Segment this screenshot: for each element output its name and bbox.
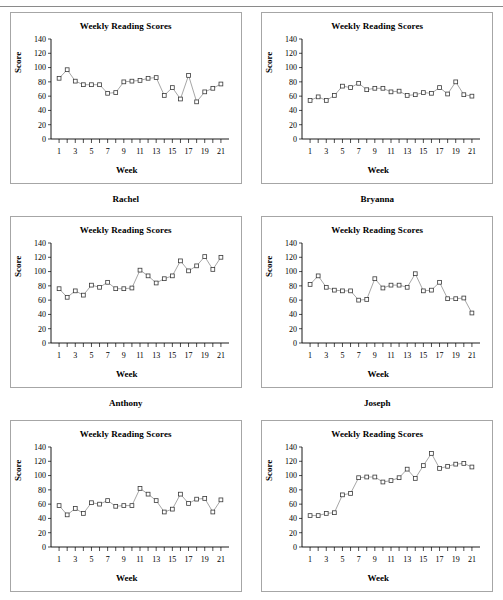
data-point-marker (154, 499, 158, 503)
x-tick-label: 5 (341, 555, 345, 564)
data-point-marker (57, 504, 61, 508)
data-point-marker (438, 467, 442, 471)
data-point-marker (422, 464, 426, 468)
student-name-label: Joseph (364, 398, 391, 410)
x-tick-label: 21 (468, 147, 476, 156)
data-point-marker (446, 92, 450, 96)
x-tick-label: 11 (387, 147, 395, 156)
x-tick-label: 11 (136, 351, 144, 360)
data-point-marker (462, 296, 466, 300)
x-tick-label: 21 (217, 555, 225, 564)
data-point-marker (381, 480, 385, 484)
data-point-marker (389, 283, 393, 287)
y-tick-label: 120 (34, 457, 46, 466)
data-point-marker (73, 289, 77, 293)
y-tick-label: 0 (42, 339, 46, 348)
chart-title: Weekly Reading Scores (262, 429, 492, 439)
chart-cell: Weekly Reading ScoresScoreWeek0204060801… (252, 216, 503, 410)
y-tick-label: 140 (34, 35, 46, 44)
data-point-marker (406, 285, 410, 289)
data-point-marker (162, 277, 166, 281)
data-point-marker (317, 274, 321, 278)
data-point-marker (57, 287, 61, 291)
y-tick-label: 80 (38, 486, 46, 495)
y-tick-label: 140 (285, 443, 297, 452)
data-point-marker (146, 76, 150, 80)
data-point-marker (333, 288, 337, 292)
y-tick-label: 60 (38, 296, 46, 305)
data-point-marker (138, 268, 142, 272)
data-point-marker (211, 268, 215, 272)
y-tick-label: 20 (38, 529, 46, 538)
data-point-marker (130, 286, 134, 290)
data-point-marker (325, 512, 329, 516)
data-point-marker (138, 79, 142, 83)
y-tick-label: 80 (38, 282, 46, 291)
chart-svg: 02040608010012014013579111315171921 (11, 35, 243, 185)
x-tick-label: 13 (152, 147, 160, 156)
data-point-marker (203, 255, 207, 259)
y-tick-label: 120 (285, 253, 297, 262)
x-tick-label: 15 (420, 555, 428, 564)
data-point-marker (97, 285, 101, 289)
y-tick-label: 80 (289, 282, 297, 291)
x-tick-label: 5 (89, 147, 93, 156)
y-tick-label: 100 (34, 267, 46, 276)
data-point-marker (194, 497, 198, 501)
data-point-marker (186, 269, 190, 273)
x-tick-label: 1 (308, 351, 312, 360)
data-point-marker (454, 297, 458, 301)
data-point-marker (341, 84, 345, 88)
x-tick-label: 15 (168, 555, 176, 564)
x-tick-label: 9 (373, 147, 377, 156)
chart-svg: 02040608010012014013579111315171921 (262, 443, 494, 593)
data-point-marker (438, 86, 442, 90)
data-point-marker (430, 91, 434, 95)
data-point-marker (81, 83, 85, 87)
data-point-marker (365, 298, 369, 302)
data-point-marker (325, 285, 329, 289)
x-tick-label: 5 (89, 555, 93, 564)
x-tick-label: 3 (73, 147, 77, 156)
y-tick-label: 40 (38, 106, 46, 115)
y-tick-label: 40 (38, 514, 46, 523)
data-point-marker (170, 274, 174, 278)
data-point-marker (333, 94, 337, 98)
chart-cell: Weekly Reading ScoresScoreWeek0204060801… (0, 420, 252, 600)
chart-cell: Weekly Reading ScoresScoreWeek0204060801… (0, 216, 252, 410)
chart-title: Weekly Reading Scores (11, 429, 241, 439)
data-point-marker (211, 86, 215, 90)
y-tick-label: 20 (38, 325, 46, 334)
data-point-marker (170, 507, 174, 511)
data-point-marker (357, 476, 361, 480)
y-tick-label: 0 (293, 543, 297, 552)
y-tick-label: 140 (34, 239, 46, 248)
x-tick-label: 7 (105, 351, 109, 360)
data-point-marker (97, 83, 101, 87)
x-tick-label: 3 (73, 555, 77, 564)
chart-title: Weekly Reading Scores (262, 21, 492, 31)
series-line (59, 488, 221, 514)
data-point-marker (154, 281, 158, 285)
plot-area: ScoreWeek0204060801001201401357911131517… (262, 35, 494, 185)
x-tick-label: 13 (403, 147, 411, 156)
x-tick-label: 21 (217, 351, 225, 360)
chart-panel: Weekly Reading ScoresScoreWeek0204060801… (261, 12, 493, 184)
data-point-marker (122, 504, 126, 508)
x-tick-label: 13 (403, 555, 411, 564)
x-tick-label: 11 (387, 555, 395, 564)
plot-area: ScoreWeek0204060801001201401357911131517… (11, 239, 243, 389)
data-point-marker (389, 479, 393, 483)
data-point-marker (349, 86, 353, 90)
data-point-marker (430, 288, 434, 292)
data-point-marker (130, 79, 134, 83)
chart-title: Weekly Reading Scores (11, 225, 241, 235)
chart-panel: Weekly Reading ScoresScoreWeek0204060801… (10, 12, 242, 184)
x-tick-label: 19 (200, 147, 208, 156)
data-point-marker (406, 94, 410, 98)
data-point-marker (203, 90, 207, 94)
data-point-marker (89, 501, 93, 505)
y-tick-label: 80 (289, 486, 297, 495)
x-tick-label: 1 (57, 147, 61, 156)
data-point-marker (470, 465, 474, 469)
